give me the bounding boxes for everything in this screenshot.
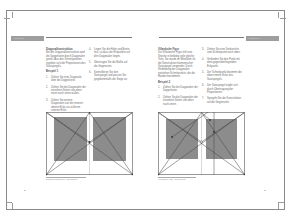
list-item: 4.Verbinden Sie den Punkt mit dem gegenü… [202,58,244,68]
chapter-tab-label: Satzspiegel [11,36,44,41]
page-number: 3 [264,189,265,192]
chapter-tab: Satzspiegel [11,36,44,41]
list-item: 4.Legen Sie die Höhe und Breite fest, so… [89,48,131,58]
intro-paragraph: Bei der Diagonalkonstruktion wird die Do… [46,51,86,68]
left-column-2: 4.Legen Sie die Höhe und Breite fest, so… [89,48,131,84]
crop-mark [278,12,279,18]
header-rule [159,37,244,38]
list-item: 3.Ziehen Sie eine Senkrechte vom Schnitt… [202,48,244,55]
crop-mark [12,12,13,18]
list-item: 3.Ziehen Sie weitere Diagonalen von der … [46,99,86,113]
figure-caption: Diagonalkonstruktion – Doppelseite [46,178,78,180]
example-heading: Beispiel 2 [158,81,198,84]
page-number: 2 [24,189,25,192]
list-item: 2.Ziehen Sie die Diagonalen der einzelne… [158,96,198,106]
crop-mark [278,203,279,209]
figure-caption: Villardsche Figur – Doppelseite [158,178,186,180]
left-column-1: Diagonalkonstruktion Bei der Diagonalkon… [46,48,86,116]
steps-list: 3.Ziehen Sie eine Senkrechte vom Schnitt… [202,48,244,104]
steps-list: 4.Legen Sie die Höhe und Breite fest, so… [89,48,131,81]
crop-mark [12,203,13,209]
list-item: 2.Ziehen Sie die Diagonalen der einzelne… [46,86,86,96]
list-item: 6.Der Satzspiegel ergibt sich durch Über… [202,84,244,94]
list-item: 1.Ziehen Sie eine Diagonale über die Dop… [46,76,86,83]
header-rule [46,37,132,38]
villard-figure [158,112,245,176]
list-item: 6.Kontrollieren Sie den Satzspiegel und … [89,71,131,81]
steps-list: 1.Ziehen Sie eine Diagonale über die Dop… [46,76,86,113]
chapter-tab: Satzspiegel [246,36,279,41]
crop-mark [280,18,286,19]
list-item: 1.Ziehen Sie die Diagonalen der Doppelse… [158,86,198,93]
crop-mark [4,18,10,19]
list-item: 5.Übertragen Sie die Maße auf die Gegens… [89,61,131,68]
example-heading: Beispiel 1 [46,70,86,73]
diagonal-construction-figure [46,112,133,176]
chapter-tab-label: Satzspiegel [246,36,279,41]
intro-paragraph: Die Villardsche Figur teilt eine Strecke… [158,51,198,78]
right-column-2: 3.Ziehen Sie eine Senkrechte vom Schnitt… [202,48,244,107]
list-item: 7.Spiegeln Sie die Konstruktion auf die … [202,97,244,104]
book-spread: Satzspiegel Diagonalkonstruktion Bei der… [0,0,292,220]
list-item: 5.Der Schnittpunkt bestimmt die obere in… [202,71,244,81]
right-column-1: Villardsche Figur Die Villardsche Figur … [158,48,198,109]
steps-list: 1.Ziehen Sie die Diagonalen der Doppelse… [158,86,198,106]
